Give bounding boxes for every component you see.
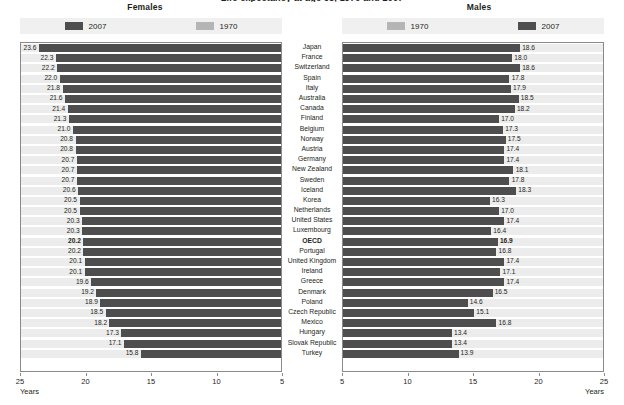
bar-row[interactable] bbox=[21, 277, 281, 287]
country-row[interactable]: United States bbox=[284, 215, 340, 225]
bar-row[interactable] bbox=[21, 206, 281, 216]
country-row[interactable]: France bbox=[284, 52, 340, 62]
bar-row[interactable] bbox=[21, 338, 281, 348]
legend-females-item-2007[interactable]: 2007 bbox=[20, 22, 151, 31]
bar-row[interactable] bbox=[21, 237, 281, 247]
bar-row[interactable] bbox=[343, 206, 603, 216]
bar-row[interactable] bbox=[343, 257, 603, 267]
bar-row[interactable] bbox=[343, 94, 603, 104]
legend-females-item-1970[interactable]: 1970 bbox=[151, 22, 282, 31]
legend-swatch-icon bbox=[196, 22, 214, 30]
bar-row[interactable] bbox=[343, 175, 603, 185]
bar-row[interactable] bbox=[21, 318, 281, 328]
bar-row[interactable] bbox=[21, 53, 281, 63]
country-row[interactable]: Iceland bbox=[284, 185, 340, 195]
bar-row[interactable] bbox=[343, 104, 603, 114]
bar-row[interactable] bbox=[343, 308, 603, 318]
bar-2007 bbox=[56, 54, 281, 62]
country-row[interactable]: Netherlands bbox=[284, 205, 340, 215]
bar-row[interactable] bbox=[21, 155, 281, 165]
bar-row[interactable] bbox=[343, 114, 603, 124]
bar-row[interactable] bbox=[21, 349, 281, 359]
bar-value-label: 17.1 bbox=[503, 267, 516, 276]
country-row[interactable]: Italy bbox=[284, 83, 340, 93]
country-row[interactable]: Sweden bbox=[284, 174, 340, 184]
country-row[interactable]: Finland bbox=[284, 113, 340, 123]
country-row[interactable]: Belgium bbox=[284, 124, 340, 134]
bar-row[interactable] bbox=[343, 63, 603, 73]
bar-row[interactable] bbox=[21, 267, 281, 277]
bar-row[interactable] bbox=[343, 226, 603, 236]
bar-row[interactable] bbox=[21, 63, 281, 73]
bar-row[interactable] bbox=[343, 74, 603, 84]
bar-row[interactable] bbox=[21, 298, 281, 308]
bar-2007 bbox=[77, 156, 281, 164]
bar-row[interactable] bbox=[343, 53, 603, 63]
bar-row[interactable] bbox=[343, 288, 603, 298]
bar-row[interactable] bbox=[343, 318, 603, 328]
country-row[interactable]: Switzerland bbox=[284, 62, 340, 72]
legend-males-item-2007[interactable]: 2007 bbox=[473, 22, 604, 31]
bar-2007 bbox=[80, 197, 282, 205]
country-row[interactable]: OECD bbox=[284, 236, 340, 246]
bar-row[interactable] bbox=[21, 216, 281, 226]
bar-row[interactable] bbox=[343, 267, 603, 277]
country-row[interactable]: Spain bbox=[284, 73, 340, 83]
country-label: Luxembourg bbox=[293, 226, 331, 234]
country-row[interactable]: Korea bbox=[284, 195, 340, 205]
country-row[interactable]: Mexico bbox=[284, 317, 340, 327]
bar-row[interactable] bbox=[21, 165, 281, 175]
country-row[interactable]: Japan bbox=[284, 42, 340, 52]
bar-row[interactable] bbox=[21, 226, 281, 236]
bar-row[interactable] bbox=[21, 328, 281, 338]
country-row[interactable]: Germany bbox=[284, 154, 340, 164]
bar-row[interactable] bbox=[343, 277, 603, 287]
country-row[interactable]: New Zealand bbox=[284, 164, 340, 174]
bar-row[interactable] bbox=[343, 155, 603, 165]
country-row[interactable]: Czech Republic bbox=[284, 307, 340, 317]
country-row[interactable]: Luxembourg bbox=[284, 225, 340, 235]
bar-row[interactable] bbox=[343, 338, 603, 348]
bar-row[interactable] bbox=[21, 43, 281, 53]
bar-row[interactable] bbox=[21, 257, 281, 267]
bar-row[interactable] bbox=[343, 43, 603, 53]
bar-row[interactable] bbox=[343, 125, 603, 135]
legend-males-item-1970[interactable]: 1970 bbox=[342, 22, 473, 31]
country-row[interactable]: Turkey bbox=[284, 348, 340, 358]
bar-value-label: 15.1 bbox=[476, 307, 489, 316]
bar-row[interactable] bbox=[21, 84, 281, 94]
country-row[interactable]: Austria bbox=[284, 144, 340, 154]
bar-row[interactable] bbox=[343, 196, 603, 206]
bar-row[interactable] bbox=[21, 196, 281, 206]
country-row[interactable]: Ireland bbox=[284, 266, 340, 276]
bar-row[interactable] bbox=[343, 135, 603, 145]
country-row[interactable]: Canada bbox=[284, 103, 340, 113]
country-row[interactable]: Greece bbox=[284, 276, 340, 286]
country-row[interactable]: Australia bbox=[284, 93, 340, 103]
bar-row[interactable] bbox=[21, 288, 281, 298]
bar-row[interactable] bbox=[343, 247, 603, 257]
country-row[interactable]: Poland bbox=[284, 297, 340, 307]
bar-row[interactable] bbox=[343, 328, 603, 338]
bar-row[interactable] bbox=[21, 175, 281, 185]
bar-row[interactable] bbox=[21, 247, 281, 257]
bar-row[interactable] bbox=[343, 186, 603, 196]
bar-row[interactable] bbox=[343, 145, 603, 155]
country-row[interactable]: Denmark bbox=[284, 287, 340, 297]
bar-row[interactable] bbox=[343, 237, 603, 247]
bar-row[interactable] bbox=[21, 74, 281, 84]
country-row[interactable]: Portugal bbox=[284, 246, 340, 256]
bar-row[interactable] bbox=[343, 216, 603, 226]
bar-row[interactable] bbox=[343, 165, 603, 175]
bar-2007 bbox=[343, 115, 499, 123]
bar-row[interactable] bbox=[21, 186, 281, 196]
country-row[interactable]: Norway bbox=[284, 134, 340, 144]
bar-row[interactable] bbox=[343, 84, 603, 94]
country-row[interactable]: Hungary bbox=[284, 327, 340, 337]
bar-rows-males bbox=[343, 43, 603, 371]
axis-tick-mark bbox=[151, 373, 152, 376]
country-row[interactable]: United Kingdom bbox=[284, 256, 340, 266]
bar-value-label: 13.4 bbox=[454, 338, 467, 347]
country-row[interactable]: Slovak Republic bbox=[284, 337, 340, 347]
bar-row[interactable] bbox=[21, 308, 281, 318]
